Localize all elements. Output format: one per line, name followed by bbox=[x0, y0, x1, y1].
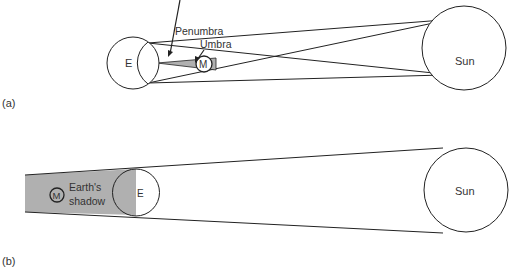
panel-a: E M Sun Penumbra Umbra (a) bbox=[2, 0, 506, 109]
umbra-label: Umbra bbox=[200, 38, 232, 50]
caption-a: (a) bbox=[2, 97, 15, 109]
penumbra-arrowhead-icon bbox=[168, 50, 173, 57]
moon-label-b: M bbox=[53, 190, 61, 201]
penumbra-label: Penumbra bbox=[175, 25, 224, 37]
earth-circle-a bbox=[107, 37, 159, 89]
shadow-label-line1: Earth's bbox=[69, 181, 101, 193]
earth-label-b: E bbox=[137, 188, 144, 199]
panel-b: E M Earth's shadow Sun (b) bbox=[2, 148, 508, 267]
shadow-label-line2: shadow bbox=[69, 195, 106, 207]
shadow-bottom-line bbox=[25, 212, 443, 233]
eclipse-diagram: E M Sun Penumbra Umbra (a) E M Earth's s… bbox=[0, 0, 522, 268]
caption-b: (b) bbox=[2, 255, 15, 267]
sun-label-a: Sun bbox=[455, 55, 475, 67]
shadow-top-line bbox=[25, 148, 443, 175]
sun-circle-a bbox=[422, 6, 506, 90]
moon-label-a: M bbox=[199, 59, 207, 70]
sun-label-b: Sun bbox=[455, 185, 475, 197]
earth-label-a: E bbox=[125, 57, 132, 69]
